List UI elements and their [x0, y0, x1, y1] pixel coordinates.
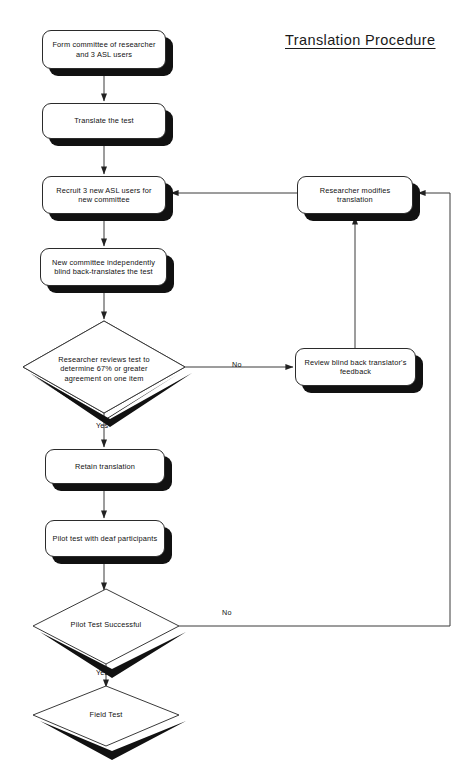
- node-pilot-test[interactable]: Pilot test with deaf participants: [45, 520, 165, 557]
- node-form-committee-line1: Form committee of researcher: [52, 40, 155, 49]
- edge-label-no-agreement: No: [232, 360, 242, 369]
- edge-label-no-pilot: No: [222, 608, 232, 617]
- decision-pilot-successful: [33, 589, 179, 664]
- node-review-feedback-line1: Review blind back translator's: [304, 358, 406, 367]
- decision-review-agreement-face: [23, 321, 185, 413]
- node-translate-test-label: Translate the test: [74, 116, 134, 125]
- node-back-translate-line2: blind back-translates the test: [54, 267, 153, 276]
- node-form-committee[interactable]: Form committee of researcher and 3 ASL u…: [42, 30, 166, 69]
- node-researcher-modifies-line1: Researcher modifies: [320, 186, 391, 195]
- page-title: Translation Procedure: [285, 32, 436, 48]
- node-translate-test[interactable]: Translate the test: [42, 103, 166, 139]
- flowchart-canvas: Translation Procedure Form committee of …: [0, 0, 474, 766]
- node-researcher-modifies[interactable]: Researcher modifies translation: [297, 176, 413, 214]
- node-retain-translation[interactable]: Retain translation: [45, 449, 165, 484]
- node-recruit-users-line2: new committee: [78, 195, 130, 204]
- node-back-translate[interactable]: New committee independently blind back-t…: [40, 248, 167, 286]
- edge-pilot-no-loop: [179, 193, 450, 626]
- node-review-feedback[interactable]: Review blind back translator's feedback: [295, 348, 416, 386]
- node-form-committee-line2: and 3 ASL users: [76, 50, 132, 59]
- node-recruit-users-line1: Recruit 3 new ASL users for: [56, 186, 151, 195]
- edge-label-yes-agreement: Yes: [96, 421, 108, 430]
- node-retain-translation-label: Retain translation: [75, 462, 135, 471]
- edge-label-yes-pilot: Yes: [96, 668, 108, 677]
- decision-field-test: [33, 686, 179, 746]
- node-back-translate-line1: New committee independently: [52, 258, 155, 267]
- node-researcher-modifies-line2: translation: [337, 195, 373, 204]
- node-pilot-test-label: Pilot test with deaf participants: [53, 534, 158, 543]
- node-recruit-users[interactable]: Recruit 3 new ASL users for new committe…: [42, 176, 166, 214]
- node-review-feedback-line2: feedback: [340, 367, 371, 376]
